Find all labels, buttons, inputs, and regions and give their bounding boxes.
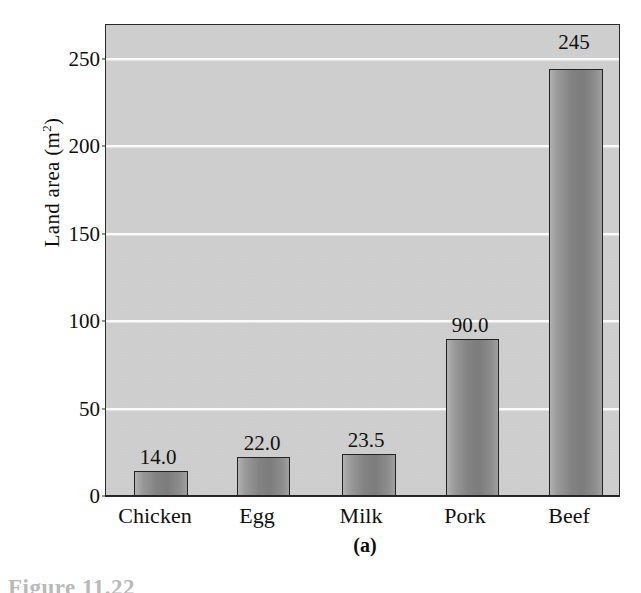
bar-beef[interactable] bbox=[549, 69, 603, 496]
y-tick-label-150: 150 bbox=[38, 223, 100, 244]
y-tick-label-250: 250 bbox=[38, 48, 100, 69]
value-label-egg: 22.0 bbox=[212, 433, 312, 454]
x-tick-label-milk: Milk bbox=[311, 505, 411, 527]
value-label-chicken: 14.0 bbox=[108, 447, 208, 468]
gridline-250 bbox=[106, 58, 619, 60]
value-label-milk: 23.5 bbox=[316, 430, 416, 451]
x-tick-label-egg: Egg bbox=[207, 505, 307, 527]
gridline-150 bbox=[106, 233, 619, 235]
y-tick-label-50: 50 bbox=[38, 398, 100, 419]
figure-caption-partial: Figure 11.22 bbox=[8, 576, 135, 593]
plot-area bbox=[105, 24, 620, 497]
x-tick-label-pork: Pork bbox=[415, 505, 515, 527]
gridline-200 bbox=[106, 145, 619, 147]
x-tick-label-beef: Beef bbox=[519, 505, 619, 527]
y-tick-label-200: 200 bbox=[38, 136, 100, 157]
value-label-pork: 90.0 bbox=[420, 315, 520, 336]
bar-milk[interactable] bbox=[342, 454, 396, 496]
figure-container: Land area (m2) 0 50 100 150 200 250 14.0 bbox=[0, 0, 641, 593]
gridline-50 bbox=[106, 408, 619, 410]
y-tick-label-100: 100 bbox=[38, 311, 100, 332]
bar-chicken[interactable] bbox=[134, 471, 188, 496]
bar-egg[interactable] bbox=[237, 457, 290, 496]
y-tick-label-0: 0 bbox=[38, 486, 100, 507]
x-axis-baseline bbox=[106, 495, 619, 496]
x-tick-label-chicken: Chicken bbox=[85, 505, 225, 527]
value-label-beef: 245 bbox=[524, 32, 624, 53]
gridline-100 bbox=[106, 320, 619, 322]
bar-pork[interactable] bbox=[446, 339, 499, 496]
subfigure-caption: (a) bbox=[315, 535, 415, 555]
